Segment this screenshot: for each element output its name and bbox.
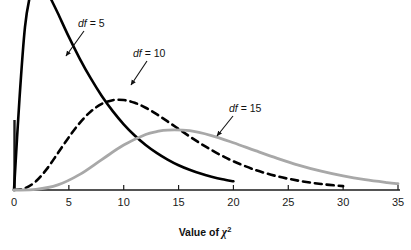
chart-plot-area: 05101520253035 df = 5 df = 10 df = 15 xyxy=(0,0,411,250)
series-label-df-15: df = 15 xyxy=(229,102,262,114)
df-value-text: = 10 xyxy=(142,47,166,59)
df-10-annotation-arrow xyxy=(131,61,147,85)
x-axis-tick-label: 25 xyxy=(282,196,294,208)
x-axis-tick-label: 15 xyxy=(172,196,184,208)
axis-title-prefix: Value of xyxy=(179,226,222,238)
x-axis-title: Value of χ2 xyxy=(179,225,232,239)
x-axis-tick-label: 20 xyxy=(227,196,239,208)
x-axis-tick-label: 30 xyxy=(337,196,349,208)
x-axis-tick-label: 5 xyxy=(66,196,72,208)
x-axis-tick-label: 0 xyxy=(11,196,17,208)
x-axis-tick-label: 10 xyxy=(118,196,130,208)
curve-df-10 xyxy=(14,100,343,190)
df-value-text: = 15 xyxy=(238,102,262,114)
series-group xyxy=(14,0,398,190)
chi-exponent: 2 xyxy=(227,225,231,234)
x-axis-tick-labels: 05101520253035 xyxy=(11,196,404,208)
df-15-annotation-arrow xyxy=(217,116,233,136)
series-label-df-5: df = 5 xyxy=(78,17,105,29)
chi-square-distribution-chart: 05101520253035 df = 5 df = 10 df = 15 xyxy=(0,0,411,250)
series-label-df-10: df = 10 xyxy=(133,47,166,59)
curve-df-5 xyxy=(14,0,233,190)
df-value-text: = 5 xyxy=(87,17,105,29)
curve-df-15 xyxy=(14,130,398,190)
x-axis-tick-label: 35 xyxy=(392,196,404,208)
